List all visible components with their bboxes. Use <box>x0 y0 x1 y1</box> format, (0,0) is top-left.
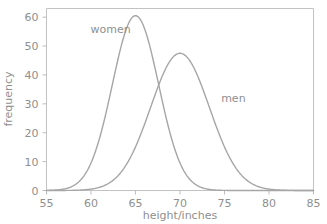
x-tick-label: 65 <box>129 197 143 210</box>
chart-container: 55606570758085 0102030405060 womenmen he… <box>0 0 327 224</box>
y-tick-label: 10 <box>25 156 39 169</box>
y-tick-label: 20 <box>25 127 39 140</box>
x-tick-label: 60 <box>84 197 98 210</box>
frequency-distribution-chart: 55606570758085 0102030405060 womenmen he… <box>0 0 327 224</box>
y-tick-label: 0 <box>32 185 39 198</box>
y-tick-label: 30 <box>25 98 39 111</box>
x-tick-label: 85 <box>307 197 321 210</box>
x-tick-label: 70 <box>173 197 187 210</box>
series-label-women: women <box>90 23 130 36</box>
y-axis-title: frequency <box>2 71 15 127</box>
x-tick-label: 75 <box>218 197 232 210</box>
y-tick-label: 40 <box>25 69 39 82</box>
x-axis-title: height/inches <box>143 209 218 222</box>
x-tick-label: 55 <box>40 197 54 210</box>
y-tick-label: 50 <box>25 40 39 53</box>
x-tick-label: 80 <box>262 197 276 210</box>
series-label-men: men <box>221 92 245 105</box>
y-tick-label: 60 <box>25 11 39 24</box>
